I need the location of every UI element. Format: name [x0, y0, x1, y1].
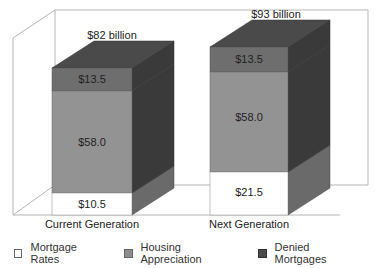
- legend-label: Housing Appreciation: [141, 241, 238, 265]
- legend-label: Denied Mortgages: [275, 241, 358, 265]
- bar-next-generation: $93 billion $13.5 $58.0 $21.5 Next Gener…: [209, 8, 330, 230]
- legend-item-mortgage-rates: Mortgage Rates: [14, 241, 103, 265]
- bar1-total-label: $82 billion: [87, 29, 137, 41]
- bar1-housing-label: $58.0: [78, 136, 106, 148]
- bar2-denied-label: $13.5: [235, 53, 263, 65]
- legend-item-housing-appreciation: Housing Appreciation: [124, 241, 237, 265]
- stacked-bar-chart: $82 billion $13.5 $58.0 $10.5 Current Ge…: [0, 0, 379, 268]
- legend-swatch-housing-appreciation: [124, 249, 133, 258]
- bar1-mortgage-label: $10.5: [78, 198, 106, 210]
- bar2-mortgage-label: $21.5: [235, 186, 263, 198]
- bar-current-generation: $82 billion $13.5 $58.0 $10.5 Current Ge…: [45, 29, 174, 230]
- legend-item-denied-mortgages: Denied Mortgages: [258, 241, 358, 265]
- bar1-denied-label: $13.5: [78, 73, 106, 85]
- bar2-total-label: $93 billion: [251, 8, 301, 20]
- category-label-current: Current Generation: [45, 218, 139, 230]
- legend-swatch-denied-mortgages: [258, 249, 267, 258]
- category-label-next: Next Generation: [209, 218, 289, 230]
- bar2-housing-label: $58.0: [235, 111, 263, 123]
- legend: Mortgage Rates Housing Appreciation Deni…: [14, 241, 379, 265]
- legend-label: Mortgage Rates: [30, 241, 103, 265]
- legend-swatch-mortgage-rates: [14, 249, 22, 258]
